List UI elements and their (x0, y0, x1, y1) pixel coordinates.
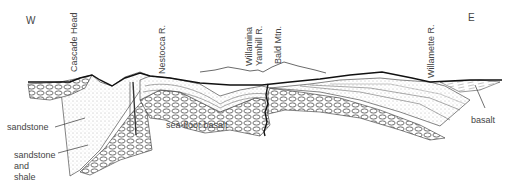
label-nestocca-r: Nestocca R. (157, 25, 167, 74)
label-sea-floor-basalt: sea-floor basalt (166, 120, 228, 131)
label-willamina: Willamina (244, 27, 254, 66)
label-basalt: basalt (471, 115, 495, 126)
label-cascade-head: Cascade Head (69, 12, 79, 72)
label-sandstone: sandstone (7, 122, 49, 133)
label-willamette-r: Willamette R. (426, 24, 436, 78)
label-yamhill-r: Yamhill R. (254, 26, 264, 66)
label-bald-mtn: Bald Mtn. (273, 26, 283, 64)
label-west: W (26, 15, 35, 26)
label-sandstone-and-shale: sandstone and shale (14, 150, 56, 183)
label-east: E (468, 12, 475, 23)
